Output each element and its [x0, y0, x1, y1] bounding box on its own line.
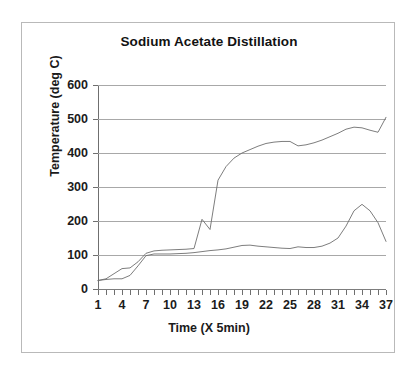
y-tick-label-400: 400 [42, 147, 88, 160]
y-tick-label-300: 300 [42, 181, 88, 194]
plot-area [98, 85, 386, 289]
y-tick-label-200: 200 [42, 215, 88, 228]
x-tick-label-16: 16 [205, 299, 231, 312]
x-tick-label-4: 4 [109, 299, 135, 312]
y-tick-label-600: 600 [42, 79, 88, 92]
y-tick-label-100: 100 [42, 249, 88, 262]
chart-figure: Sodium Acetate Distillation Temperature … [21, 22, 395, 353]
y-tick-label-0: 0 [42, 283, 88, 296]
x-tick-label-31: 31 [325, 299, 351, 312]
x-tick-label-34: 34 [349, 299, 375, 312]
series-line-upper-curve [98, 117, 386, 280]
x-axis-title: Time (X 5min) [22, 321, 396, 335]
x-tick-label-28: 28 [301, 299, 327, 312]
chart-title: Sodium Acetate Distillation [22, 34, 396, 49]
x-tick-label-10: 10 [157, 299, 183, 312]
x-tick-label-7: 7 [133, 299, 159, 312]
x-axis-tick-marks [98, 290, 387, 296]
series-lines [98, 85, 386, 289]
x-tick-label-25: 25 [277, 299, 303, 312]
y-tick-label-500: 500 [42, 113, 88, 126]
x-tick-label-37: 37 [373, 299, 399, 312]
x-tick-label-1: 1 [85, 299, 111, 312]
x-tick-label-13: 13 [181, 299, 207, 312]
x-tick-label-19: 19 [229, 299, 255, 312]
x-tick-label-22: 22 [253, 299, 279, 312]
series-line-lower-curve [98, 204, 386, 280]
